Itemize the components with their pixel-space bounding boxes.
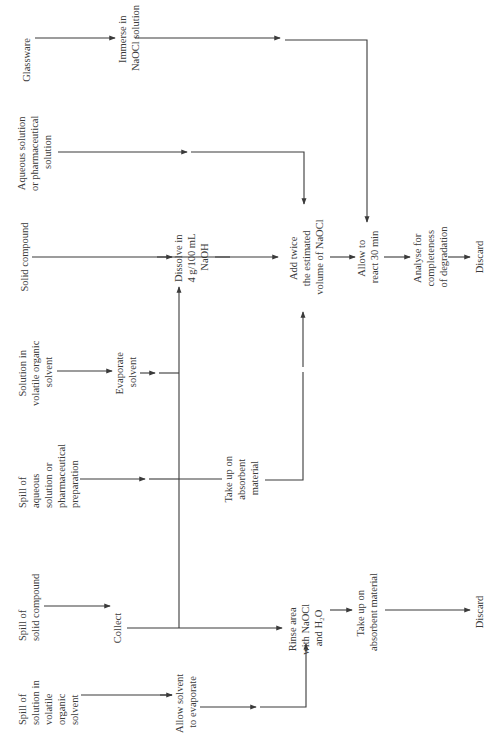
node-spill-volatile: Spill of solution in volatile organic so… <box>17 678 80 725</box>
node-collect: Collect <box>112 613 123 643</box>
node-spill-solid: Spill of solid compound <box>17 573 41 641</box>
svg-text:Evaporate solvent: Evaporate solvent <box>114 349 138 394</box>
node-allow-react: Allow to react 30 min <box>356 230 380 283</box>
svg-text:Solution in volatile org: Solution in volatile organic solvent <box>17 338 54 406</box>
svg-text:Rinse area with NaOCl: Rinse area with NaOCl and H₂O <box>287 601 324 655</box>
svg-text:Collect: Collect <box>112 613 123 643</box>
node-discard-1: Discard <box>474 240 485 273</box>
node-aqueous-solution: Aqueous solution or pharmaceutical solut… <box>16 113 53 191</box>
svg-text:Discard: Discard <box>474 240 485 273</box>
node-analyse-degradation: Analyse for completeness of degradation <box>412 226 449 288</box>
node-solid-compound: Solid compound <box>19 222 30 292</box>
node-spill-aqueous: Spill of aqueous solution or pharmaceuti… <box>17 441 80 508</box>
arrow-immerse-react <box>285 40 367 222</box>
svg-text:Solid compound: Solid compound <box>19 222 30 292</box>
svg-text:Glassware: Glassware <box>21 38 32 82</box>
svg-text:Take up on absorbent: Take up on absorbent material <box>223 453 260 502</box>
node-add-twice-naocl: Add twice the estimated volume of NaOCl <box>288 219 325 294</box>
svg-text:Analyse for completeness: Analyse for completeness of degradation <box>412 226 449 288</box>
node-dissolve-naoh: Dissolve in 4 g/100 mL NaOH <box>173 231 210 282</box>
line-takeup-up <box>265 372 303 480</box>
node-take-up-absorbent-1: Take up on absorbent material <box>223 453 260 502</box>
node-solution-volatile: Solution in volatile organic solvent <box>17 338 54 406</box>
node-allow-evaporate: Allow solvent to evaporate <box>174 671 198 733</box>
svg-text:Dissolve in 4 g/100 mL: Dissolve in 4 g/100 mL NaOH <box>173 231 210 282</box>
svg-text:Allow to react 30 min: Allow to react 30 min <box>356 230 380 283</box>
node-evaporate-solvent: Evaporate solvent <box>114 349 138 394</box>
arrow-aqueous-add <box>191 152 304 204</box>
connector-lines <box>32 38 470 707</box>
svg-text:Spill of aqueous s: Spill of aqueous solution or pharmaceuti… <box>17 441 80 508</box>
svg-text:Add twice the estimated: Add twice the estimated volume of NaOCl <box>288 219 325 294</box>
svg-text:Spill of solution in: Spill of solution in volatile organic so… <box>17 678 80 725</box>
svg-text:Immerse in NaOCl solutio: Immerse in NaOCl solution <box>117 4 141 71</box>
svg-text:Spill of solid compound: Spill of solid compound <box>17 573 41 641</box>
node-take-up-absorbent-2: Take up on absorbent material <box>355 573 379 651</box>
node-rinse-area: Rinse area with NaOCl and H₂O <box>287 601 324 655</box>
node-discard-2: Discard <box>474 595 485 628</box>
node-immerse-naocl: Immerse in NaOCl solution <box>117 4 141 71</box>
node-glassware: Glassware <box>21 38 32 82</box>
svg-text:Allow solvent to evapora: Allow solvent to evaporate <box>174 671 198 733</box>
svg-text:Discard: Discard <box>474 595 485 628</box>
svg-text:Take up on absorbent mat: Take up on absorbent material <box>355 573 379 651</box>
svg-text:Aqueous solution or phar: Aqueous solution or pharmaceutical solut… <box>16 113 53 191</box>
disposal-flowchart: Glassware Aqueous solution or pharmaceut… <box>0 0 495 748</box>
